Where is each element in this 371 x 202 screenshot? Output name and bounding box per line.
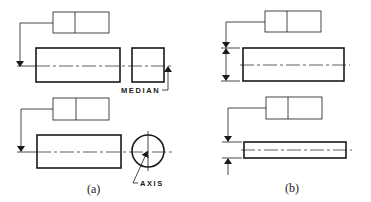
part-rectangle-b-top [243,48,344,81]
part-rectangle-a-bottom [37,135,121,168]
part-rectangle-a-top [36,48,120,82]
caption-b: (b) [285,181,299,195]
median-leader [162,67,168,90]
feature-control-frame-b-bottom [266,97,322,119]
panel-a: MEDIAN AXIS (a) [17,12,174,196]
median-label: MEDIAN [121,86,160,95]
feature-control-frame-b-top [265,11,321,32]
panel-b: (b) [221,11,352,195]
leader-arrow-b-top [226,22,265,47]
axis-label: AXIS [140,179,164,188]
geometric-tolerance-diagram: MEDIAN AXIS (a) [0,0,371,202]
caption-a: (a) [87,182,100,196]
feature-control-frame-a-top [53,12,109,33]
leader-arrow-b-bottom [228,108,266,141]
feature-control-frame-a-bottom [53,98,109,120]
part-end-view-square [132,48,164,82]
